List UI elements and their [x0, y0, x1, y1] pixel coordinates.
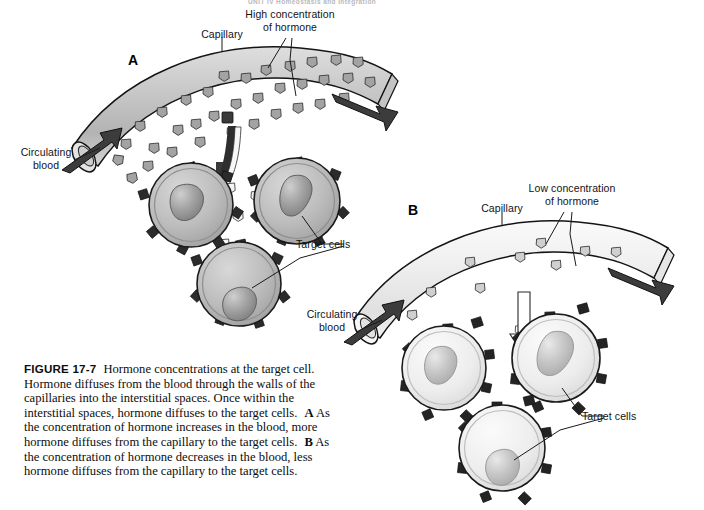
figure-title: Hormone concentrations at the target cel…: [103, 362, 314, 376]
figure-number: FIGURE 17-7: [24, 362, 96, 375]
target-cell: [400, 317, 494, 423]
panel-a-circulating-blood-label: Circulating blood: [6, 146, 86, 171]
panel-b-target-cells-label: Target cells: [582, 410, 654, 423]
figure-illustration: UNIT IV Homeostasis and Integration: [0, 0, 704, 510]
panel-a-illustration: [62, 37, 398, 328]
panel-a-hormone-concentration-label: High concentration of hormone: [232, 8, 348, 33]
panel-b-circulating-blood-label: Circulating blood: [292, 308, 372, 333]
figure-panel-b-letter: B: [304, 435, 312, 449]
panel-a-letter: A: [128, 52, 138, 68]
panel-b-target-cells: [400, 303, 607, 505]
panel-b-letter: B: [408, 202, 418, 218]
panel-b-capillary: [349, 221, 674, 348]
figure-panel-a-letter: A: [304, 406, 313, 420]
figure-caption: FIGURE 17-7Hormone concentrations at the…: [24, 362, 330, 479]
target-cell: [248, 157, 350, 247]
figure-caption-body: Hormone diffuses from the blood through …: [24, 377, 315, 420]
target-cell: [190, 239, 290, 328]
panel-b-hormone-concentration-label: Low concentration of hormone: [514, 182, 630, 207]
panel-a-target-cells-label: Target cells: [296, 238, 368, 251]
panel-b-illustration: [344, 212, 674, 505]
